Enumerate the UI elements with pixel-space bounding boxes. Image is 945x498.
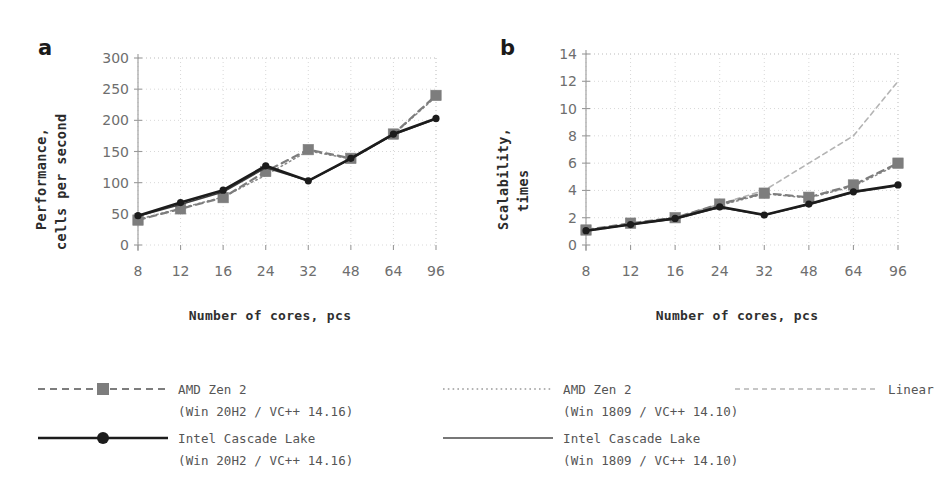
data-point-marker: [305, 177, 312, 184]
legend-label-line1: Intel Cascade Lake: [178, 431, 315, 446]
data-point-marker: [582, 227, 589, 234]
data-point-marker: [893, 158, 903, 168]
y-tick-label: 250: [102, 81, 129, 97]
legend-marker: [97, 432, 109, 444]
data-point-marker: [177, 199, 184, 206]
panel-b-series-group: [581, 81, 903, 235]
legend-label-line2: (Win 20H2 / VC++ 14.16): [178, 404, 353, 419]
x-tick-label: 8: [582, 263, 591, 279]
data-point-marker: [218, 192, 228, 202]
panel-b-ytick-labels: 02468101214: [559, 46, 577, 253]
legend-label-line2: (Win 1809 / VC++ 14.10): [563, 453, 738, 468]
legend-label-line1: Intel Cascade Lake: [563, 431, 700, 446]
panel-a-xtick-labels: 812162432486496: [134, 263, 445, 279]
panel-b-letter: b: [500, 36, 515, 60]
legend-label-line2: (Win 20H2 / VC++ 14.16): [178, 453, 353, 468]
x-tick-label: 12: [622, 263, 640, 279]
panel-b-xtick-labels: 812162432486496: [582, 263, 907, 279]
data-point-marker: [347, 155, 354, 162]
x-tick-label: 64: [845, 263, 863, 279]
legend-entry-intel-cascade-lake-1809[interactable]: Intel Cascade Lake(Win 1809 / VC++ 14.10…: [443, 431, 738, 468]
y-tick-label: 200: [102, 112, 129, 128]
x-tick-label: 96: [427, 263, 445, 279]
x-tick-label: 24: [711, 263, 729, 279]
legend-label-line1: AMD Zen 2: [178, 382, 247, 397]
legend-label-line2: (Win 1809 / VC++ 14.10): [563, 404, 738, 419]
data-point-marker: [627, 221, 634, 228]
panel-b-ylabel-group: Scalability, times: [495, 128, 531, 230]
panel-a-ytick-labels: 050100150200250300: [102, 50, 129, 253]
y-tick-label: 12: [559, 73, 577, 89]
figure-root: a Performance, cells per second 05010015…: [0, 0, 945, 498]
y-tick-label: 14: [559, 46, 577, 62]
data-point-marker: [761, 211, 768, 218]
legend-entry-intel-cascade-lake-20h2[interactable]: Intel Cascade Lake(Win 20H2 / VC++ 14.16…: [38, 431, 353, 468]
y-tick-label: 300: [102, 50, 129, 66]
y-tick-label: 2: [568, 210, 577, 226]
legend-entry-amd-zen2-1809[interactable]: AMD Zen 2(Win 1809 / VC++ 14.10): [443, 382, 738, 419]
x-tick-label: 32: [299, 263, 317, 279]
legend: AMD Zen 2(Win 20H2 / VC++ 14.16)AMD Zen …: [38, 382, 934, 468]
data-point-marker: [894, 181, 901, 188]
x-tick-label: 64: [385, 263, 403, 279]
legend-entry-linear[interactable]: Linear: [735, 382, 934, 397]
y-tick-label: 8: [568, 128, 577, 144]
data-point-marker: [262, 162, 269, 169]
data-point-marker: [390, 130, 397, 137]
x-tick-label: 16: [214, 263, 232, 279]
x-tick-label: 16: [666, 263, 684, 279]
data-point-marker: [759, 188, 769, 198]
x-tick-label: 48: [800, 263, 818, 279]
y-tick-label: 0: [120, 237, 129, 253]
panel-a-gridlines: [138, 58, 436, 245]
y-tick-label: 10: [559, 101, 577, 117]
panel-b: b Scalability, times 02468101214 8121624…: [495, 36, 907, 323]
panel-a-ylabel-group: Performance, cells per second: [33, 114, 69, 250]
data-point-marker: [850, 188, 857, 195]
data-point-marker: [805, 200, 812, 207]
legend-label-line1: AMD Zen 2: [563, 382, 632, 397]
data-point-marker: [431, 90, 441, 100]
x-tick-label: 48: [342, 263, 360, 279]
x-tick-label: 32: [755, 263, 773, 279]
panel-a-letter: a: [38, 36, 52, 60]
legend-label-line1: Linear: [888, 382, 934, 397]
data-point-marker: [220, 187, 227, 194]
data-point-marker: [716, 203, 723, 210]
panel-a-ylabel-line1: Performance,: [33, 128, 49, 230]
y-tick-label: 100: [102, 175, 129, 191]
series-dashed-light: [586, 81, 898, 231]
data-point-marker: [134, 212, 141, 219]
x-tick-label: 12: [172, 263, 190, 279]
series-line: [586, 81, 898, 231]
panel-a-xlabel: Number of cores, pcs: [189, 308, 352, 323]
panel-b-gridlines: [586, 54, 898, 245]
legend-entry-amd-zen2-20h2[interactable]: AMD Zen 2(Win 20H2 / VC++ 14.16): [38, 382, 353, 419]
panel-b-ylabel-line2: times: [515, 169, 531, 212]
x-tick-label: 96: [889, 263, 907, 279]
y-tick-label: 6: [568, 155, 577, 171]
legend-marker: [97, 383, 109, 395]
panel-a: a Performance, cells per second 05010015…: [33, 36, 445, 323]
y-tick-label: 50: [111, 206, 129, 222]
y-tick-label: 0: [568, 237, 577, 253]
panel-a-series-group: [133, 90, 441, 225]
data-point-marker: [672, 215, 679, 222]
y-tick-label: 4: [568, 182, 577, 198]
panel-a-ylabel-line2: cells per second: [53, 114, 69, 250]
x-tick-label: 8: [134, 263, 143, 279]
x-tick-label: 24: [257, 263, 275, 279]
panel-b-xlabel: Number of cores, pcs: [656, 308, 819, 323]
data-point-marker: [432, 115, 439, 122]
panel-a-axes: [134, 54, 436, 251]
panel-b-ylabel-line1: Scalability,: [495, 128, 511, 230]
data-point-marker: [303, 144, 313, 154]
y-tick-label: 150: [102, 144, 129, 160]
